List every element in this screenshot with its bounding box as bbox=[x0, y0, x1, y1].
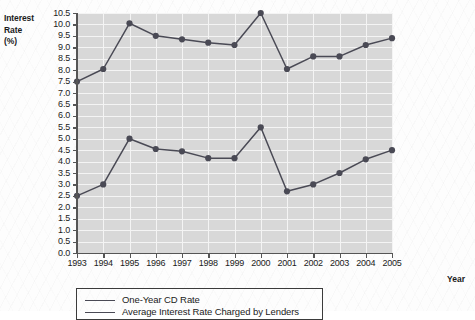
data-point-marker bbox=[310, 53, 316, 59]
data-point-marker bbox=[231, 42, 237, 48]
data-point-marker bbox=[179, 148, 185, 154]
data-point-marker bbox=[284, 188, 290, 194]
y-axis-tick bbox=[73, 230, 77, 231]
data-point-marker bbox=[336, 53, 342, 59]
legend-item-one-year-cd-rate: One-Year CD Rate bbox=[85, 294, 200, 306]
y-axis-tick bbox=[73, 139, 77, 140]
y-axis-tick-label: 0.5 bbox=[26, 237, 70, 246]
y-axis-tick bbox=[73, 150, 77, 151]
x-axis-tick bbox=[208, 254, 209, 258]
y-axis-tick-label: 6.5 bbox=[26, 100, 70, 109]
y-axis-tick bbox=[73, 173, 77, 174]
data-point-marker bbox=[100, 66, 106, 72]
y-axis-tick-label: 3.0 bbox=[26, 180, 70, 189]
y-axis-tick-label: 1.5 bbox=[26, 214, 70, 223]
data-point-marker bbox=[363, 42, 369, 48]
x-axis-title: Year bbox=[447, 274, 465, 284]
x-axis-tick bbox=[340, 254, 341, 258]
y-axis-tick bbox=[73, 59, 77, 60]
y-axis-tick bbox=[73, 47, 77, 48]
y-axis-tick-label: 2.0 bbox=[26, 203, 70, 212]
plot-area bbox=[77, 13, 392, 253]
data-point-marker bbox=[100, 181, 106, 187]
y-axis-tick-label: 0.0 bbox=[26, 249, 70, 258]
y-axis-tick-label: 1.0 bbox=[26, 226, 70, 235]
data-point-marker bbox=[179, 36, 185, 42]
y-axis-tick bbox=[73, 93, 77, 94]
data-point-marker bbox=[310, 181, 316, 187]
x-axis-tick-label: 2005 bbox=[372, 259, 412, 268]
legend-label: One-Year CD Rate bbox=[122, 295, 200, 305]
legend-line-swatch-icon bbox=[85, 300, 115, 301]
chart-legend: One-Year CD Rate Average Interest Rate C… bbox=[76, 288, 323, 320]
data-series-lines bbox=[77, 13, 392, 253]
y-axis-tick-label: 10.0 bbox=[26, 20, 70, 29]
y-axis-tick-label: 6.0 bbox=[26, 111, 70, 120]
y-axis-tick bbox=[73, 116, 77, 117]
x-axis-tick bbox=[261, 254, 262, 258]
data-point-marker bbox=[231, 155, 237, 161]
data-point-marker bbox=[205, 40, 211, 46]
x-axis-tick bbox=[182, 254, 183, 258]
y-axis-tick bbox=[73, 207, 77, 208]
data-point-marker bbox=[126, 136, 132, 142]
y-axis-tick-label: 5.0 bbox=[26, 134, 70, 143]
y-axis-tick bbox=[73, 36, 77, 37]
x-axis-tick bbox=[287, 254, 288, 258]
x-axis-tick bbox=[392, 254, 393, 258]
y-axis-tick bbox=[73, 219, 77, 220]
x-axis-tick bbox=[313, 254, 314, 258]
y-axis-tick bbox=[73, 82, 77, 83]
y-axis-tick bbox=[73, 127, 77, 128]
x-axis-tick bbox=[235, 254, 236, 258]
y-axis-tick-label: 10.5 bbox=[26, 9, 70, 18]
y-axis-tick-label: 4.0 bbox=[26, 157, 70, 166]
legend-item-average-interest-rate: Average Interest Rate Charged by Lenders bbox=[85, 306, 299, 318]
y-axis-tick-label: 2.5 bbox=[26, 191, 70, 200]
legend-label: Average Interest Rate Charged by Lenders bbox=[122, 307, 299, 317]
data-point-marker bbox=[389, 147, 395, 153]
gridline bbox=[392, 13, 393, 253]
data-point-marker bbox=[126, 20, 132, 26]
y-axis-tick-label: 8.0 bbox=[26, 66, 70, 75]
y-axis-tick-label: 4.5 bbox=[26, 146, 70, 155]
y-axis-tick-label: 3.5 bbox=[26, 169, 70, 178]
x-axis-tick bbox=[366, 254, 367, 258]
y-axis-tick bbox=[73, 162, 77, 163]
data-point-marker bbox=[258, 124, 264, 130]
y-axis-tick bbox=[73, 253, 77, 254]
y-axis-tick-label: 9.5 bbox=[26, 31, 70, 40]
y-axis-tick bbox=[73, 70, 77, 71]
y-axis-tick-label: 8.5 bbox=[26, 54, 70, 63]
x-axis-tick bbox=[130, 254, 131, 258]
y-axis-tick bbox=[73, 24, 77, 25]
x-axis-tick bbox=[103, 254, 104, 258]
y-axis-tick-label: 7.0 bbox=[26, 89, 70, 98]
data-point-marker bbox=[284, 66, 290, 72]
data-point-marker bbox=[153, 146, 159, 152]
series-line bbox=[77, 127, 392, 196]
y-axis-tick bbox=[73, 242, 77, 243]
x-axis-tick bbox=[77, 254, 78, 258]
y-axis-tick bbox=[73, 184, 77, 185]
y-axis-tick-label: 5.5 bbox=[26, 123, 70, 132]
data-point-marker bbox=[258, 10, 264, 16]
x-axis-tick bbox=[156, 254, 157, 258]
data-point-marker bbox=[205, 155, 211, 161]
y-axis-tick bbox=[73, 104, 77, 105]
data-point-marker bbox=[389, 35, 395, 41]
y-axis-tick bbox=[73, 13, 77, 14]
data-point-marker bbox=[153, 33, 159, 39]
data-point-marker bbox=[363, 156, 369, 162]
y-axis-tick-label: 9.0 bbox=[26, 43, 70, 52]
y-axis-tick-label: 7.5 bbox=[26, 77, 70, 86]
legend-line-swatch-icon bbox=[85, 312, 115, 313]
data-point-marker bbox=[336, 170, 342, 176]
y-axis-tick bbox=[73, 196, 77, 197]
